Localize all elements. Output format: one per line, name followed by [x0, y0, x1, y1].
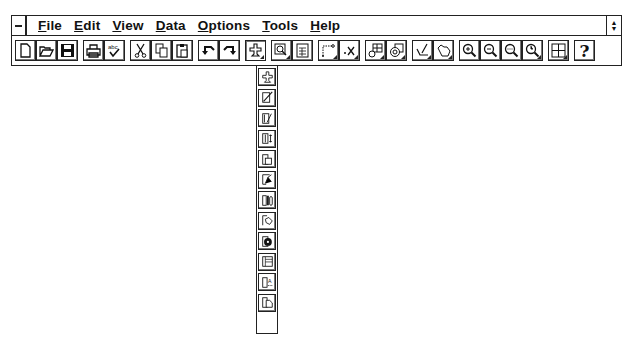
application-window: File Edit View Data Options Tools Help ▲… — [11, 15, 622, 66]
color-palette-button[interactable] — [386, 40, 407, 61]
zoom-fit-icon — [504, 43, 519, 58]
range-chart-icon — [261, 132, 274, 145]
pan-button[interactable] — [433, 40, 454, 61]
menu-bar: File Edit View Data Options Tools Help ▲… — [12, 16, 621, 36]
cut-button[interactable] — [130, 40, 151, 61]
3d-chart-icon — [261, 296, 274, 309]
stacked-bar-option[interactable] — [258, 150, 276, 168]
menu-edit[interactable]: Edit — [74, 18, 100, 33]
paste-button[interactable] — [172, 40, 193, 61]
line-chart-icon — [261, 91, 274, 104]
series-x-button[interactable] — [339, 40, 360, 61]
menu-view[interactable]: View — [112, 18, 143, 33]
new-document-icon — [18, 43, 33, 58]
toolbar: abc ? — [12, 36, 621, 66]
menu-data[interactable]: Data — [156, 18, 186, 33]
bar-chart-icon — [261, 194, 274, 207]
help-button[interactable]: ? — [574, 40, 595, 61]
pie-chart-option[interactable] — [258, 212, 276, 230]
menu-help[interactable]: Help — [310, 18, 340, 33]
table-grid-button[interactable] — [365, 40, 386, 61]
print-button[interactable] — [83, 40, 104, 61]
redo-button[interactable] — [219, 40, 240, 61]
zoom-in-button[interactable] — [459, 40, 480, 61]
draw-button[interactable] — [412, 40, 433, 61]
zoom-out-icon — [483, 43, 498, 58]
zoom-out-button[interactable] — [480, 40, 501, 61]
svg-text:abc: abc — [108, 44, 118, 50]
cut-scissors-icon — [133, 43, 148, 58]
save-disk-icon — [60, 43, 75, 58]
open-button[interactable] — [36, 40, 57, 61]
gallery-icon — [261, 71, 274, 84]
text-chart-option[interactable]: A — [258, 273, 276, 291]
menu-options[interactable]: Options — [198, 18, 250, 33]
open-folder-icon — [39, 43, 54, 58]
scatter-chart-option[interactable] — [258, 171, 276, 189]
chart-wizard-button[interactable] — [271, 40, 292, 61]
line-chart-option[interactable] — [258, 89, 276, 107]
pie-chart-icon — [261, 214, 274, 227]
data-sheet-button[interactable] — [292, 40, 313, 61]
help-icon: ? — [580, 41, 590, 61]
system-menu-icon — [15, 25, 22, 27]
axis-button[interactable] — [318, 40, 339, 61]
table-chart-icon — [261, 255, 274, 268]
area-chart-icon — [261, 112, 274, 125]
window-scroll-arrows[interactable]: ▲▼ — [606, 16, 621, 35]
bar-chart-option[interactable] — [258, 191, 276, 209]
menu-tools[interactable]: Tools — [262, 18, 298, 33]
svg-text:A: A — [267, 277, 271, 283]
chart-type-dropdown: A — [256, 66, 278, 334]
doughnut-chart-option[interactable] — [258, 232, 276, 250]
area-chart-option[interactable] — [258, 109, 276, 127]
stacked-bar-icon — [261, 153, 274, 166]
down-arrow-icon: ▼ — [611, 26, 618, 32]
layout-button[interactable] — [548, 40, 569, 61]
3d-chart-option[interactable] — [258, 294, 276, 312]
table-chart-option[interactable] — [258, 253, 276, 271]
new-button[interactable] — [15, 40, 36, 61]
text-chart-icon: A — [261, 276, 274, 289]
undo-icon — [201, 43, 216, 58]
chart-type-button[interactable] — [245, 40, 266, 61]
zoom-fit-button[interactable] — [501, 40, 522, 61]
menu-file[interactable]: File — [38, 18, 62, 33]
zoom-in-icon — [462, 43, 477, 58]
save-button[interactable] — [57, 40, 78, 61]
system-menu-button[interactable] — [12, 16, 27, 35]
copy-button[interactable] — [151, 40, 172, 61]
doughnut-chart-icon — [261, 235, 274, 248]
undo-button[interactable] — [198, 40, 219, 61]
spell-check-icon: abc — [107, 43, 122, 58]
spell-check-button[interactable]: abc — [104, 40, 125, 61]
range-chart-option[interactable] — [258, 130, 276, 148]
zoom-time-button[interactable] — [522, 40, 543, 61]
data-sheet-icon — [295, 43, 310, 58]
gallery-option[interactable] — [258, 68, 276, 86]
redo-icon — [222, 43, 237, 58]
print-icon — [86, 43, 101, 58]
paste-icon — [175, 43, 190, 58]
scatter-chart-icon — [261, 173, 274, 186]
copy-icon — [154, 43, 169, 58]
